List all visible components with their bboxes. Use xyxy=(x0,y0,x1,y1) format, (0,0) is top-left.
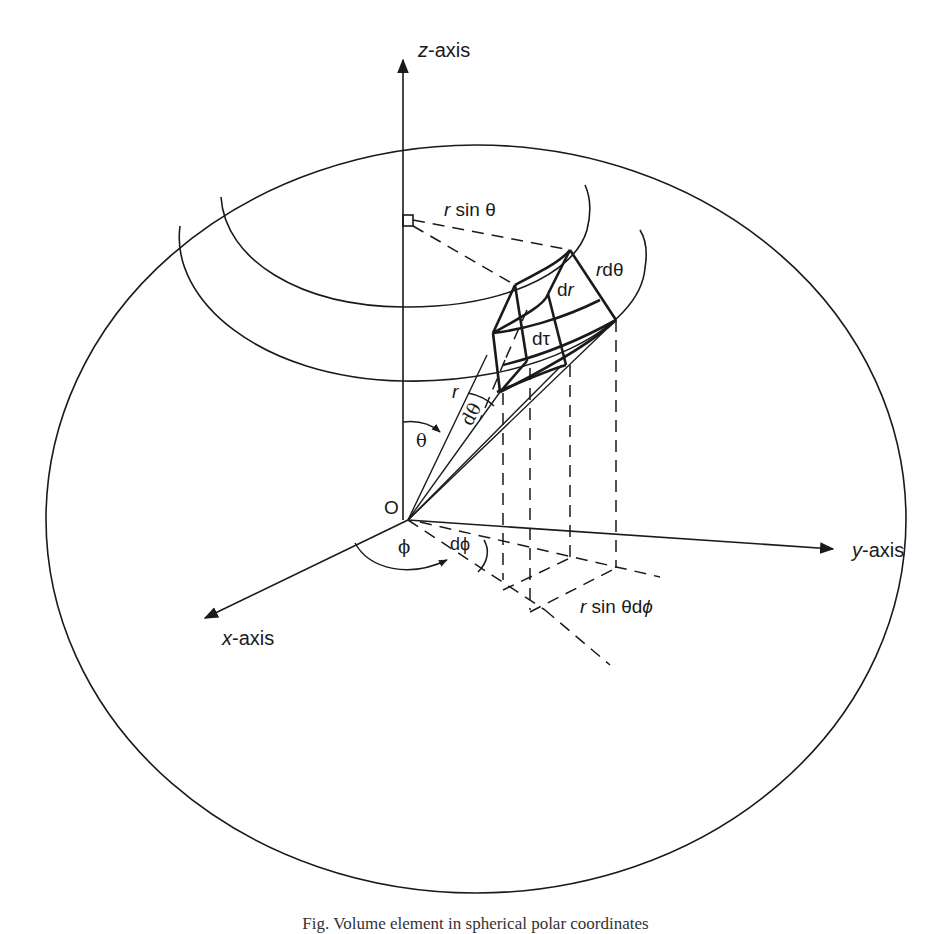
r-dtheta-label: rdθ xyxy=(596,260,623,279)
sphere-outline xyxy=(46,145,906,893)
right-angle-marker xyxy=(403,215,413,226)
dphi-label: dϕ xyxy=(450,535,470,553)
theta-label: θ xyxy=(416,432,427,450)
x-axis-line xyxy=(205,520,408,618)
y-axis-label: y-axis xyxy=(852,540,904,560)
r-sin-theta-label: r sin θ xyxy=(444,200,496,219)
origin-label: O xyxy=(384,498,399,517)
dtau-label: dτ xyxy=(532,329,550,348)
figure-caption: Fig. Volume element in spherical polar c… xyxy=(0,914,951,934)
phi-label: ϕ xyxy=(398,538,410,556)
z-axis-label: z-axis xyxy=(418,40,470,60)
dr-label: dr xyxy=(557,280,574,299)
r-sin-theta-dphi-label: r sin θdϕ xyxy=(580,597,653,616)
r-label: r xyxy=(452,382,458,401)
x-axis-label: x-axis xyxy=(222,628,274,648)
inner-latitude-circle xyxy=(221,185,590,307)
y-axis-line xyxy=(408,520,833,549)
